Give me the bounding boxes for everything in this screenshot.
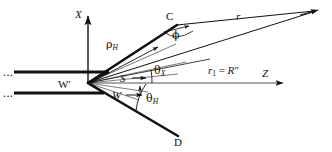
rho-subscript: H	[111, 43, 118, 52]
r1-expression-label: r1=R″	[208, 64, 239, 78]
geometry-diagram: ... ... X Z W' C D ρH r r1=R″ S W θX θH …	[0, 0, 332, 152]
theta-h-subscript: H	[152, 97, 159, 106]
c-point-label: C	[166, 10, 173, 22]
x-axis-label: X	[74, 8, 83, 20]
r-ray-label: r	[236, 10, 241, 22]
ellipsis-upper: ...	[3, 65, 13, 79]
ellipsis-lower: ...	[3, 86, 13, 100]
r1-subscript: 1	[212, 69, 216, 78]
theta-h-angle-arc	[136, 84, 146, 111]
origin-label: W'	[58, 78, 70, 90]
r1-double-prime: ″	[234, 64, 239, 76]
horn-lower-edge	[88, 83, 178, 136]
theta-x-label: θX	[154, 64, 166, 78]
w-vector-label: W	[112, 89, 122, 101]
theta-h-label: θH	[146, 92, 159, 106]
rho-h-label: ρH	[106, 38, 118, 52]
phi-label: ϕ	[172, 29, 180, 42]
diagram-canvas: ... ... X Z W' C D ρH r r1=R″ S W θX θH …	[0, 0, 332, 152]
r1-operator: =	[219, 64, 225, 76]
theta-x-subscript: X	[160, 69, 166, 78]
r1-trail: R	[226, 64, 234, 76]
s-vector-label: S	[120, 72, 126, 84]
d-point-label: D	[174, 136, 182, 148]
z-axis-label: Z	[262, 67, 269, 79]
